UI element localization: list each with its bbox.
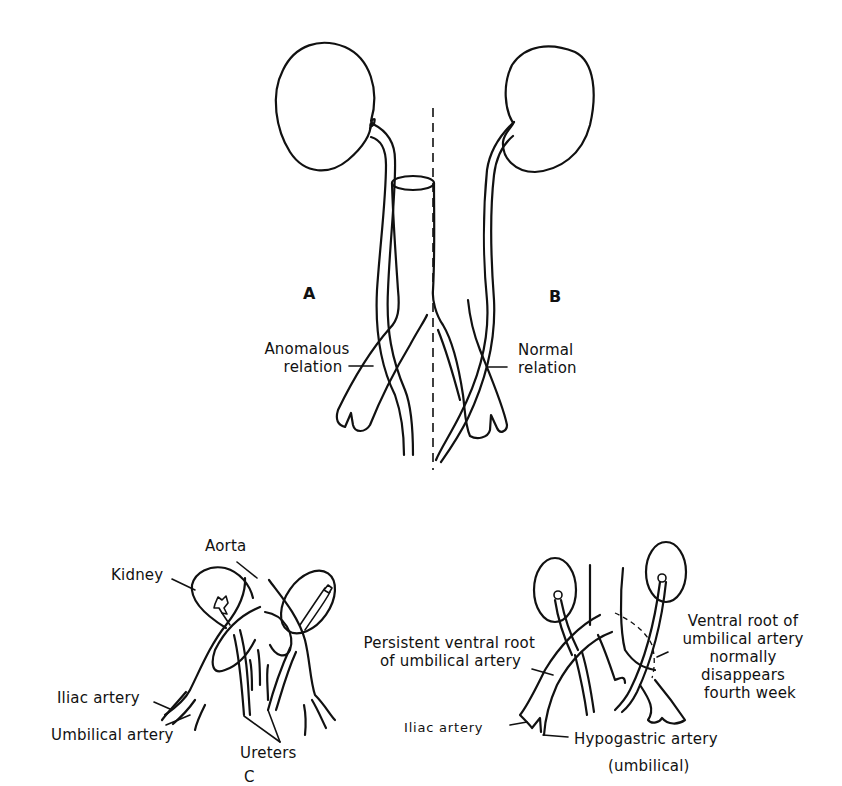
hypogastric-artery-label: Hypogastric artery <box>574 730 718 748</box>
persistent-ventral-root-label: Persistent ventral root of umbilical art… <box>335 634 535 670</box>
ventral-label-line2: umbilical artery <box>668 630 818 648</box>
kidney-label: Kidney <box>111 566 163 584</box>
ventral-label-line5: fourth week <box>682 684 818 702</box>
umbilical-artery-label: Umbilical artery <box>51 726 174 744</box>
ventral-root-disappears-label: Ventral root of umbilical artery normall… <box>668 612 818 702</box>
ureters-label: Ureters <box>240 744 297 762</box>
hypogastric-umbilical-label: (umbilical) <box>608 757 690 775</box>
iliac-artery-label-d: Iliac artery <box>404 719 483 737</box>
aorta-label: Aorta <box>205 537 246 555</box>
persistent-label-line1: Persistent ventral root <box>335 634 535 652</box>
persistent-label-line2: of umbilical artery <box>335 652 521 670</box>
panel-letter-c: C <box>244 768 255 786</box>
ventral-label-line3: normally <box>668 648 818 666</box>
ventral-label-line4: disappears <box>668 666 818 684</box>
ventral-label-line1: Ventral root of <box>668 612 818 630</box>
iliac-artery-label-c: Iliac artery <box>57 689 140 707</box>
